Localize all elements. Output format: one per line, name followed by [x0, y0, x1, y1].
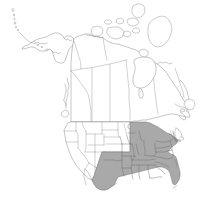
north-america-map: [0, 0, 216, 203]
aleutian-island-dot: [14, 18, 15, 20]
aleutian-island-dot: [12, 8, 14, 11]
aleutian-island-dot: [13, 14, 14, 16]
aleutian-island-dot: [15, 26, 16, 28]
kodiak-island: [46, 49, 49, 51]
banks-island: [91, 26, 103, 36]
devon-island: [127, 18, 139, 26]
aleutian-island-dot: [41, 46, 43, 47]
arctic-island-small: [104, 20, 112, 24]
aleutian-island-dot: [14, 22, 16, 25]
range-map-figure: [0, 0, 216, 203]
aleutian-island-dot: [17, 29, 18, 31]
aleutian-island-dot: [37, 44, 39, 45]
